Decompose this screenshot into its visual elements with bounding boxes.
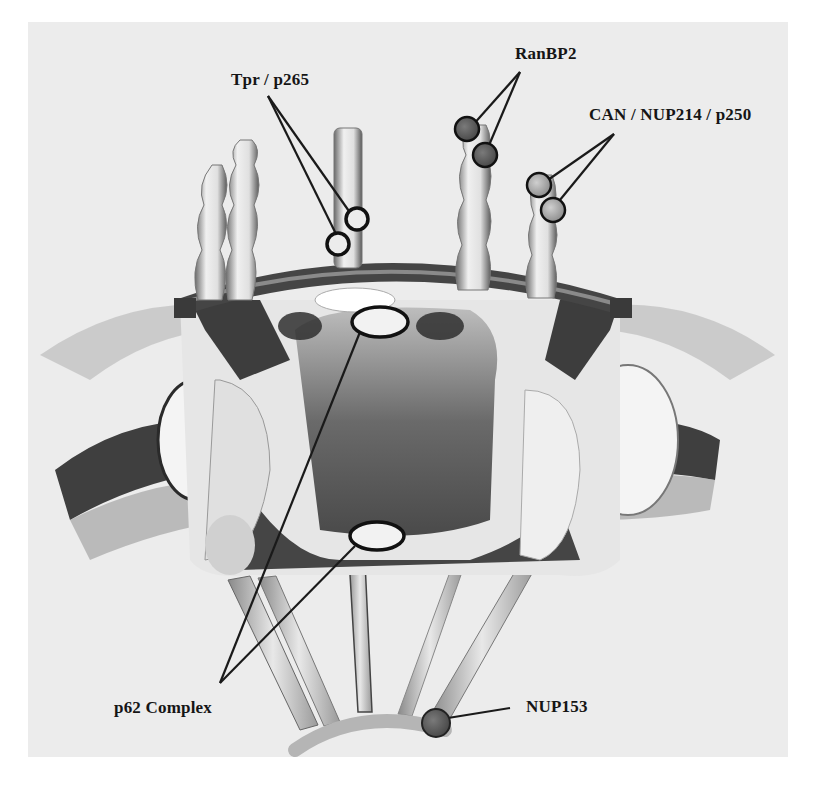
can-marker-1 bbox=[527, 173, 551, 197]
label-can-nup214-p250: CAN / NUP214 / p250 bbox=[589, 105, 751, 125]
label-tpr-p265: Tpr / p265 bbox=[231, 70, 309, 90]
nup153-marker bbox=[422, 709, 450, 737]
p62-marker-bottom bbox=[350, 522, 404, 550]
ranbp2-marker-1 bbox=[455, 117, 479, 141]
tpr-marker-1 bbox=[327, 233, 349, 255]
label-p62-complex: p62 Complex bbox=[114, 698, 212, 718]
tpr-marker-2 bbox=[346, 208, 368, 230]
ranbp2-marker-2 bbox=[473, 143, 497, 167]
label-ranbp2: RanBP2 bbox=[515, 44, 577, 64]
p62-marker-top bbox=[352, 307, 408, 337]
can-marker-2 bbox=[541, 198, 565, 222]
label-nup153: NUP153 bbox=[526, 697, 588, 717]
